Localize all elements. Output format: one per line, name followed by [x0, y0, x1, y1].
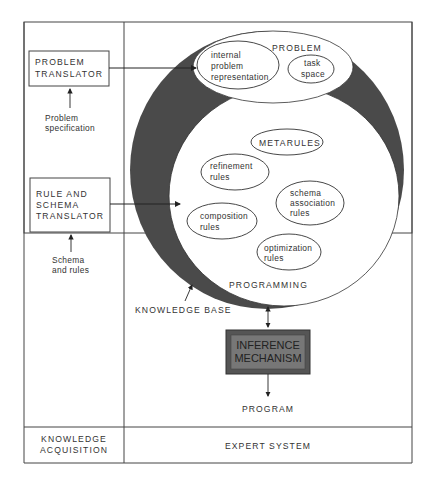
rule-translator-line1: RULE AND [36, 189, 88, 199]
expert-system-diagram: PROBLEM internal problem representation … [0, 0, 432, 487]
problem-translator-line1: PROBLEM [35, 57, 85, 67]
metarules-label: METARULES [259, 138, 321, 148]
schema-line3: rules [290, 208, 310, 218]
problem-translator-line2: TRANSLATOR [35, 69, 103, 79]
program-label: PROGRAM [242, 404, 294, 414]
internal-line1: internal [211, 50, 241, 60]
inference-line1: INFERENCE [236, 339, 300, 351]
rule-translator-line3: TRANSLATOR [36, 211, 104, 221]
schema-line1: schema [290, 188, 321, 198]
composition-line1: composition [200, 211, 248, 221]
schema-rules-line2: and rules [52, 265, 89, 275]
problem-region-title: PROBLEM [272, 43, 322, 53]
optimization-line2: rules [264, 253, 284, 263]
schema-rules-line1: Schema [52, 255, 85, 265]
refinement-line2: rules [210, 172, 230, 182]
optimization-line1: optimization [264, 243, 312, 253]
knowledge-base-pointer [185, 285, 192, 301]
composition-line2: rules [200, 222, 220, 232]
inference-mechanism-box: INFERENCE MECHANISM [226, 330, 310, 374]
problem-spec-line1: Problem [45, 113, 78, 123]
inference-line2: MECHANISM [234, 352, 301, 364]
knowledge-acquisition-line2: ACQUISITION [40, 445, 108, 455]
refinement-line1: refinement [210, 161, 253, 171]
schema-line2: association [290, 198, 335, 208]
problem-spec-line2: specification [45, 123, 95, 133]
knowledge-acquisition-line1: KNOWLEDGE [41, 434, 107, 444]
programming-region [169, 86, 399, 306]
internal-line3: representation [211, 72, 269, 82]
task-line1: task [304, 58, 321, 68]
internal-line2: problem [211, 61, 243, 71]
rule-translator-line2: SCHEMA [36, 200, 79, 210]
knowledge-base-label: KNOWLEDGE BASE [135, 305, 232, 315]
task-line2: space [301, 69, 325, 79]
programming-region-title: PROGRAMMING [229, 280, 308, 290]
expert-system-label: EXPERT SYSTEM [225, 441, 311, 451]
